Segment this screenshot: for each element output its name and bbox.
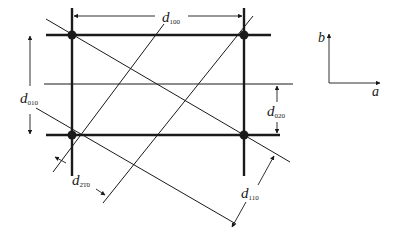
label-d100: d100 bbox=[162, 9, 181, 26]
plane-2bar10-second bbox=[103, 16, 253, 203]
lattice-diagram: d100 d010 d020 d2̄1̄0 d110 b a bbox=[0, 0, 398, 245]
lattice-point-bottom-left bbox=[68, 131, 77, 140]
d2bar10-arrow-right bbox=[96, 189, 105, 195]
label-d2bar10: d2̄1̄0 bbox=[72, 172, 91, 189]
lattice-point-bottom-right bbox=[240, 131, 249, 140]
axes-indicator bbox=[329, 34, 380, 83]
dimension-d110 bbox=[232, 156, 274, 227]
lattice-point-top-right bbox=[240, 31, 249, 40]
plane-110-second bbox=[36, 108, 236, 224]
label-d110: d110 bbox=[241, 185, 259, 202]
planes-2bar10 bbox=[53, 16, 253, 203]
label-d020: d020 bbox=[267, 103, 286, 120]
lattice-point-top-left bbox=[68, 31, 77, 40]
label-b-axis: b bbox=[318, 30, 325, 45]
d110-arrow-down bbox=[232, 202, 246, 227]
plane-110-first bbox=[46, 19, 290, 162]
dimension-d2bar10 bbox=[55, 157, 105, 195]
label-a-axis: a bbox=[372, 84, 379, 99]
label-d010: d010 bbox=[20, 90, 39, 107]
lattice-columns bbox=[72, 8, 244, 176]
d110-arrow-up bbox=[258, 156, 274, 185]
lattice-rows bbox=[44, 35, 293, 135]
